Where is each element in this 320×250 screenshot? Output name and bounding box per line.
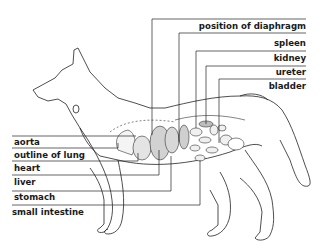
label-aorta: aorta <box>14 137 40 147</box>
label-heart: heart <box>14 163 40 173</box>
label-spleen: spleen <box>274 38 306 48</box>
leader-lines <box>12 19 306 205</box>
label-liver: liver <box>14 177 36 187</box>
label-outline-of-lung: outline of lung <box>14 150 85 160</box>
organs <box>110 115 245 161</box>
label-bladder: bladder <box>269 81 306 91</box>
label-position-of-diaphragm: position of diaphragm <box>199 21 306 31</box>
label-small-intestine: small intestine <box>12 207 84 217</box>
label-ureter: ureter <box>276 67 306 77</box>
label-stomach: stomach <box>14 192 55 202</box>
label-kidney: kidney <box>274 53 306 63</box>
